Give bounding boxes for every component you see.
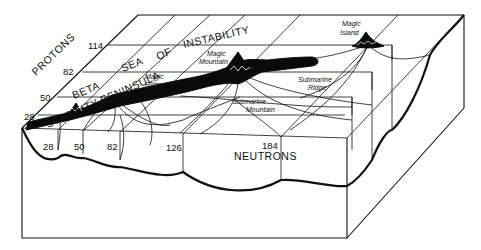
nuclear-stability-diagram: PROTONS 114 82 50 28 28 50 82 126 184 NE… bbox=[0, 0, 481, 250]
submarine-ridge-label-1: Submarine bbox=[298, 76, 332, 83]
sea-label-1: SEA bbox=[119, 54, 144, 74]
magic-island-label-2: Island bbox=[340, 29, 360, 36]
proton-tick-28: 28 bbox=[24, 111, 35, 122]
proton-tick-114: 114 bbox=[88, 40, 103, 51]
sea-label-2: OF bbox=[154, 45, 173, 62]
neutrons-axis-label: NEUTRONS bbox=[234, 150, 297, 162]
magic-island-label-1: Magic bbox=[342, 20, 361, 28]
proton-tick-82: 82 bbox=[63, 66, 74, 77]
submarine-mountain-label-1: Submarine bbox=[232, 98, 266, 105]
neutron-tick-28: 28 bbox=[43, 141, 54, 152]
magic-ridge-label-1: Magic bbox=[145, 73, 164, 81]
neutron-tick-82: 82 bbox=[107, 141, 118, 152]
magic-mountain-label-1: Magic bbox=[207, 50, 226, 58]
magic-mountain-label-2: Mountain bbox=[199, 58, 228, 65]
sea-label-3: INSTABILITY bbox=[182, 23, 251, 50]
neutron-tick-50: 50 bbox=[74, 141, 85, 152]
magic-ridge-label-2: Ridge bbox=[145, 81, 163, 89]
submarine-ridge-label-2: Ridge bbox=[308, 84, 326, 92]
neutron-tick-126: 126 bbox=[166, 142, 182, 153]
submarine-mountain-label-2: Mountain bbox=[246, 106, 275, 113]
proton-tick-50: 50 bbox=[40, 92, 51, 103]
